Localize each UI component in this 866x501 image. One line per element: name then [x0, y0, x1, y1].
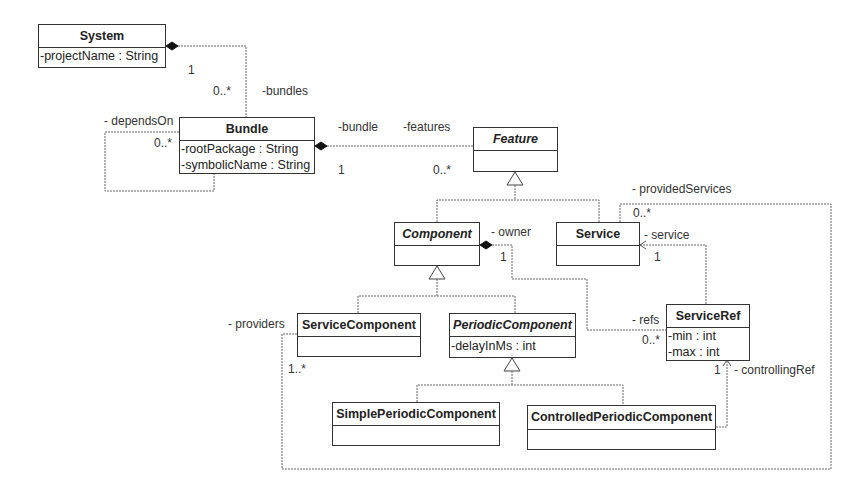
- multiplicity-label: 0..*: [642, 333, 660, 347]
- class-attributes: -min : int -max : int: [667, 328, 749, 360]
- class-name: ServiceRef: [667, 305, 749, 328]
- role-label: - providers: [228, 317, 285, 331]
- system-bundles-line: [178, 46, 246, 117]
- periodic-generalization-triangle-icon: [504, 358, 520, 371]
- class-name: System: [39, 25, 165, 48]
- class-service-component[interactable]: ServiceComponent: [297, 313, 421, 357]
- class-simple-periodic-component[interactable]: SimplePeriodicComponent: [332, 402, 500, 446]
- class-service[interactable]: Service: [556, 222, 640, 266]
- class-name: Bundle: [180, 118, 314, 141]
- multiplicity-label: 0..*: [633, 206, 651, 220]
- attribute: -projectName : String: [40, 48, 165, 65]
- service-ref-service-line: [640, 245, 706, 304]
- class-attributes: -projectName : String: [39, 48, 165, 65]
- role-label: - providedServices: [632, 182, 731, 196]
- attribute: -symbolicName : String: [181, 157, 314, 173]
- attribute: -delayInMs : int: [451, 337, 575, 355]
- attribute: -min : int: [668, 328, 749, 344]
- class-name: Component: [395, 223, 479, 246]
- uml-class-diagram: System -projectName : String Bundle -roo…: [0, 0, 866, 501]
- class-service-ref[interactable]: ServiceRef -min : int -max : int: [666, 304, 750, 361]
- class-periodic-component[interactable]: PeriodicComponent -delayInMs : int: [449, 313, 576, 358]
- multiplicity-label: 1..*: [288, 362, 306, 376]
- subcomponent-gen-line: [358, 296, 515, 313]
- role-label: - refs: [632, 313, 659, 327]
- component-generalization-triangle-icon: [429, 266, 445, 279]
- class-attributes: -delayInMs : int: [450, 337, 575, 355]
- class-attributes: -rootPackage : String -symbolicName : St…: [180, 141, 314, 173]
- class-system[interactable]: System -projectName : String: [38, 24, 166, 68]
- multiplicity-label: 1: [188, 63, 195, 77]
- component-composition-diamond-icon: [480, 241, 492, 249]
- class-name: Feature: [474, 128, 557, 151]
- role-label: -bundle: [338, 120, 378, 134]
- class-feature[interactable]: Feature: [473, 127, 558, 172]
- system-composition-diamond-icon: [166, 42, 178, 50]
- class-bundle[interactable]: Bundle -rootPackage : String -symbolicNa…: [179, 117, 315, 174]
- attribute: -rootPackage : String: [181, 141, 314, 157]
- role-label: - owner: [491, 225, 531, 239]
- component-service-gen-line: [437, 200, 599, 222]
- multiplicity-label: 1: [714, 363, 721, 377]
- class-component[interactable]: Component: [394, 222, 480, 266]
- class-controlled-periodic-component[interactable]: ControlledPeriodicComponent: [527, 405, 716, 450]
- class-name: ControlledPeriodicComponent: [528, 406, 715, 430]
- multiplicity-label: 0..*: [213, 84, 231, 98]
- role-label: - controllingRef: [734, 363, 815, 377]
- class-name: ServiceComponent: [298, 314, 420, 337]
- class-name: SimplePeriodicComponent: [333, 403, 499, 426]
- bundle-composition-diamond-icon: [315, 142, 327, 150]
- multiplicity-label: 1: [500, 250, 507, 264]
- role-label: - service: [644, 228, 689, 242]
- role-label: - dependsOn: [104, 114, 173, 128]
- feature-generalization-triangle-icon: [507, 172, 523, 185]
- class-name: Service: [557, 223, 639, 246]
- multiplicity-label: 1: [338, 163, 345, 177]
- role-label: -features: [403, 120, 450, 134]
- role-label: -bundles: [262, 84, 308, 98]
- class-name: PeriodicComponent: [450, 314, 575, 337]
- multiplicity-label: 0..*: [154, 136, 172, 150]
- attribute: -max : int: [668, 344, 749, 360]
- multiplicity-label: 1: [654, 250, 661, 264]
- multiplicity-label: 0..*: [433, 163, 451, 177]
